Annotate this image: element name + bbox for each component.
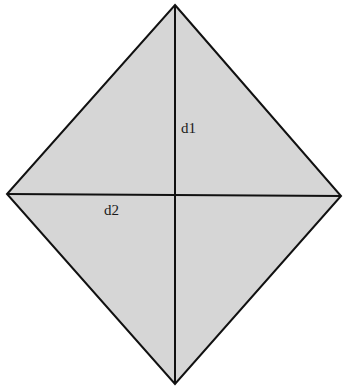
rhombus-figure <box>0 0 349 389</box>
rhombus-diagram: d1 d2 <box>0 0 349 389</box>
diagonal-d1-label: d1 <box>181 121 196 136</box>
diagonal-d2-label: d2 <box>104 203 119 218</box>
